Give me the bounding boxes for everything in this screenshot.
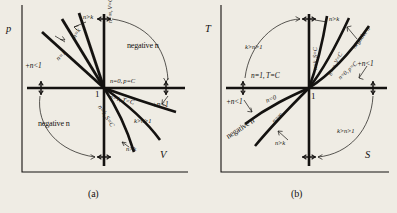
axis-label-t: T — [205, 24, 211, 35]
label-k-gt-n-gt-1-upper-left: k>n>1 — [245, 44, 262, 51]
figure-two-polytropic-diagrams: p V 1 (a) n>k n=k n=1 +n<1 n=∞, V=C nega… — [0, 0, 397, 213]
origin-label-1: 1 — [311, 92, 315, 101]
panel-a-pressure-volume: p V 1 (a) n>k n=k n=1 +n<1 n=∞, V=C nega… — [0, 0, 198, 213]
label-plus-n-lt-1-right: +n<1 — [357, 60, 374, 67]
label-n-equals-1-t-equals-c: n=1, T=C — [251, 72, 280, 79]
panel-caption-a: (a) — [88, 189, 99, 199]
label-n-infinity-v-equals-c: n=∞, V=C — [107, 0, 113, 23]
label-k-gt-n-gt-1: k>n>1 — [134, 118, 151, 125]
label-n-equals-k-s-equals-c: n=k, S=C — [312, 47, 318, 70]
leader-plus-n-lt-1-left — [55, 36, 65, 42]
axis-label-s: S — [365, 150, 370, 161]
leader-arrowhead-negative-n-upper — [347, 26, 351, 32]
leader-arrowhead-plus-n-lt-1-left — [60, 36, 65, 40]
label-n-gt-k-bottom: n>k — [126, 146, 136, 153]
label-k-gt-n-gt-1-lower-right: k>n>1 — [337, 128, 354, 135]
leader-plus-n-lt-1-left — [244, 100, 252, 112]
label-plus-n-lt-1-left: +n<1 — [25, 62, 42, 69]
label-negative-n-lower-left: negative n — [38, 120, 70, 128]
label-negative-n-upper-right: negative n — [127, 42, 159, 50]
label-n-equals-0-p-equals-c: n=0, p=C — [110, 78, 135, 85]
origin-label-1: 1 — [95, 90, 99, 99]
label-plus-n-lt-1-right: +n<1 — [152, 101, 169, 108]
label-n-gt-k-top: n>k — [83, 14, 93, 21]
panel-b-temperature-entropy: T S 1 (b) k>n>1 n=k, S=C n>k n=∞, V=C ne… — [199, 0, 397, 213]
panel-caption-b: (b) — [291, 189, 302, 199]
label-plus-n-lt-1-left: +n<1 — [226, 98, 243, 105]
axis-label-p: p — [6, 24, 11, 35]
label-n-gt-k-bottom: n>k — [275, 140, 285, 147]
label-n-gt-k-top: n>k — [329, 16, 339, 23]
axis-label-v: V — [160, 150, 166, 161]
